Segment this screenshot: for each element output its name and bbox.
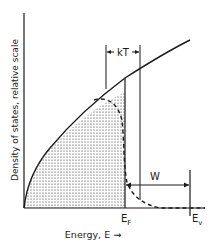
kt-arrowhead-left: [107, 50, 111, 54]
vacuum-level-label: Ev: [192, 213, 202, 227]
fermi-level-label: EF: [121, 213, 131, 227]
y-axis-label: Density of states, relative scale: [10, 39, 20, 181]
work-function-label: W: [150, 171, 160, 182]
kt-label: kT: [117, 47, 130, 58]
w-arrowhead-right: [184, 183, 189, 188]
kt-arrowhead-right: [135, 50, 139, 54]
vacuum-sub: v: [198, 219, 202, 227]
x-axis-label: Energy, E →: [65, 229, 121, 240]
fermi-sub: F: [127, 219, 131, 227]
density-of-states-diagram: kT W EF Ev Energy, E → Density of states…: [0, 0, 216, 247]
